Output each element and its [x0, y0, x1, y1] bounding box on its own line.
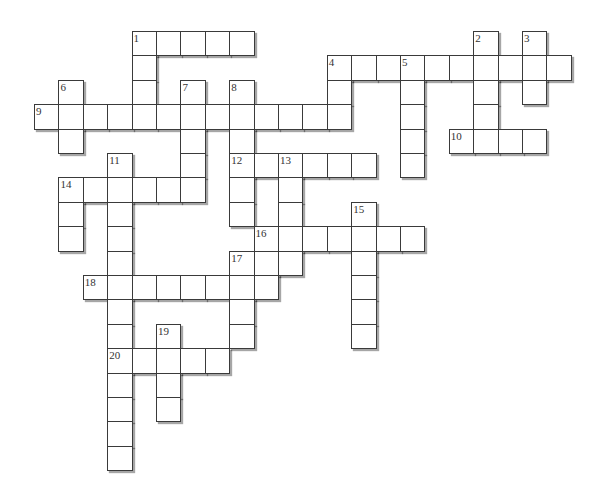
grid-cell[interactable]: 18	[83, 275, 108, 300]
grid-cell[interactable]	[522, 55, 547, 80]
grid-cell[interactable]	[302, 153, 327, 178]
grid-cell[interactable]	[229, 299, 254, 324]
grid-cell[interactable]	[156, 397, 181, 422]
grid-cell[interactable]	[156, 104, 181, 129]
grid-cell[interactable]	[132, 55, 157, 80]
grid-cell[interactable]	[400, 104, 425, 129]
grid-cell[interactable]	[107, 177, 132, 202]
grid-cell[interactable]	[400, 129, 425, 154]
grid-cell[interactable]	[83, 104, 108, 129]
grid-cell[interactable]	[278, 251, 303, 276]
grid-cell[interactable]: 6	[58, 80, 83, 105]
grid-cell[interactable]	[351, 226, 376, 251]
grid-cell[interactable]	[156, 275, 181, 300]
grid-cell[interactable]	[107, 446, 132, 471]
grid-cell[interactable]	[205, 104, 230, 129]
grid-cell[interactable]	[351, 299, 376, 324]
grid-cell[interactable]	[58, 129, 83, 154]
grid-cell[interactable]	[58, 202, 83, 227]
grid-cell[interactable]	[473, 104, 498, 129]
grid-cell[interactable]	[107, 324, 132, 349]
grid-cell[interactable]	[180, 31, 205, 56]
grid-cell[interactable]	[302, 226, 327, 251]
grid-cell[interactable]	[180, 153, 205, 178]
grid-cell[interactable]	[254, 153, 279, 178]
grid-cell[interactable]	[327, 153, 352, 178]
grid-cell[interactable]	[400, 226, 425, 251]
grid-cell[interactable]	[473, 80, 498, 105]
grid-cell[interactable]	[205, 275, 230, 300]
grid-cell[interactable]	[107, 226, 132, 251]
grid-cell[interactable]	[376, 226, 401, 251]
grid-cell[interactable]	[132, 177, 157, 202]
grid-cell[interactable]	[180, 104, 205, 129]
grid-cell[interactable]: 5	[400, 55, 425, 80]
grid-cell[interactable]	[156, 373, 181, 398]
grid-cell[interactable]	[351, 251, 376, 276]
grid-cell[interactable]: 19	[156, 324, 181, 349]
grid-cell[interactable]	[132, 348, 157, 373]
grid-cell[interactable]	[229, 324, 254, 349]
grid-cell[interactable]: 15	[351, 202, 376, 227]
grid-cell[interactable]	[58, 104, 83, 129]
grid-cell[interactable]	[351, 153, 376, 178]
grid-cell[interactable]	[522, 129, 547, 154]
grid-cell[interactable]	[278, 202, 303, 227]
grid-cell[interactable]: 12	[229, 153, 254, 178]
grid-cell[interactable]	[58, 226, 83, 251]
grid-cell[interactable]	[132, 104, 157, 129]
grid-cell[interactable]	[424, 55, 449, 80]
grid-cell[interactable]	[449, 55, 474, 80]
grid-cell[interactable]	[302, 104, 327, 129]
grid-cell[interactable]	[156, 348, 181, 373]
grid-cell[interactable]: 3	[522, 31, 547, 56]
grid-cell[interactable]	[351, 55, 376, 80]
grid-cell[interactable]	[107, 275, 132, 300]
grid-cell[interactable]	[229, 177, 254, 202]
grid-cell[interactable]	[229, 129, 254, 154]
grid-cell[interactable]	[278, 177, 303, 202]
grid-cell[interactable]: 10	[449, 129, 474, 154]
grid-cell[interactable]	[546, 55, 571, 80]
grid-cell[interactable]	[254, 275, 279, 300]
grid-cell[interactable]: 14	[58, 177, 83, 202]
grid-cell[interactable]	[180, 348, 205, 373]
grid-cell[interactable]	[351, 275, 376, 300]
grid-cell[interactable]	[278, 226, 303, 251]
grid-cell[interactable]	[180, 129, 205, 154]
grid-cell[interactable]	[107, 104, 132, 129]
grid-cell[interactable]	[522, 80, 547, 105]
grid-cell[interactable]	[229, 31, 254, 56]
grid-cell[interactable]	[278, 104, 303, 129]
grid-cell[interactable]	[107, 251, 132, 276]
grid-cell[interactable]	[498, 55, 523, 80]
grid-cell[interactable]	[351, 324, 376, 349]
grid-cell[interactable]	[473, 129, 498, 154]
grid-cell[interactable]: 2	[473, 31, 498, 56]
grid-cell[interactable]	[229, 104, 254, 129]
grid-cell[interactable]	[107, 397, 132, 422]
grid-cell[interactable]	[254, 251, 279, 276]
grid-cell[interactable]: 1	[132, 31, 157, 56]
grid-cell[interactable]	[83, 177, 108, 202]
grid-cell[interactable]	[156, 177, 181, 202]
grid-cell[interactable]	[156, 31, 181, 56]
grid-cell[interactable]	[180, 177, 205, 202]
grid-cell[interactable]: 17	[229, 251, 254, 276]
grid-cell[interactable]	[498, 129, 523, 154]
grid-cell[interactable]	[107, 373, 132, 398]
grid-cell[interactable]	[132, 80, 157, 105]
grid-cell[interactable]	[327, 80, 352, 105]
grid-cell[interactable]: 4	[327, 55, 352, 80]
grid-cell[interactable]	[400, 80, 425, 105]
grid-cell[interactable]	[376, 55, 401, 80]
grid-cell[interactable]: 7	[180, 80, 205, 105]
grid-cell[interactable]	[205, 31, 230, 56]
grid-cell[interactable]: 9	[34, 104, 59, 129]
grid-cell[interactable]	[107, 299, 132, 324]
grid-cell[interactable]: 11	[107, 153, 132, 178]
grid-cell[interactable]	[327, 104, 352, 129]
grid-cell[interactable]: 16	[254, 226, 279, 251]
grid-cell[interactable]	[254, 104, 279, 129]
grid-cell[interactable]	[180, 275, 205, 300]
